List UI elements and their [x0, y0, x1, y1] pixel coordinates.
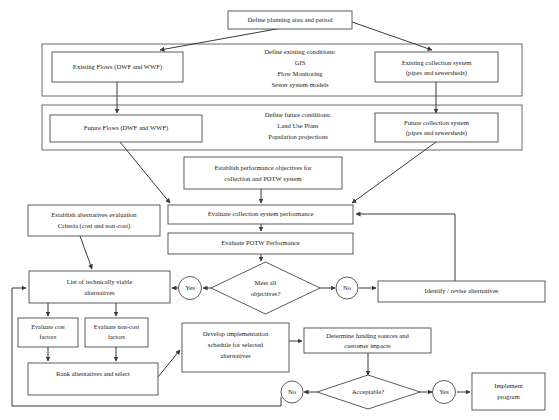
svg-text:Future collection system: Future collection system: [404, 119, 470, 126]
svg-text:schedule for selected: schedule for selected: [208, 341, 264, 348]
connector-criteria-to-list: [80, 236, 92, 269]
svg-text:Acceptable?: Acceptable?: [352, 388, 385, 395]
svg-text:Define future conditions:: Define future conditions:: [265, 111, 331, 118]
node-performance-objectives[interactable]: Establish performance objectives for col…: [184, 157, 342, 189]
node-viable-alternatives-list[interactable]: List of technically viable alternatives: [29, 271, 170, 303]
node-existing-collection-system[interactable]: Existing collection system (pipes and se…: [375, 52, 498, 82]
node-future-flows-label: Future Flows (DWF and WWF): [84, 124, 169, 132]
svg-text:Define existing conditions:: Define existing conditions:: [264, 48, 336, 55]
svg-text:Establish performance objectiv: Establish performance objectives for: [215, 164, 313, 171]
node-alternatives-criteria[interactable]: Establish alternatives evaluation Criter…: [28, 205, 160, 236]
node-meet-objectives-decision[interactable]: Meet all objectives?: [211, 262, 320, 314]
node-existing-flows[interactable]: Existing Flows (DWF and WWF): [52, 52, 183, 82]
svg-text:Meet all: Meet all: [255, 279, 277, 286]
node-determine-funding[interactable]: Determine funding sources and customer i…: [304, 328, 431, 353]
svg-text:objectives?: objectives?: [251, 290, 281, 297]
svg-text:(pipes and sewersheds): (pipes and sewersheds): [406, 129, 467, 137]
node-existing-flows-label: Existing Flows (DWF and WWF): [73, 63, 162, 71]
svg-text:Land Use Plans: Land Use Plans: [277, 122, 319, 129]
node-acceptable-decision[interactable]: Acceptable?: [317, 375, 420, 409]
svg-text:Establish alternatives evaluat: Establish alternatives evaluation: [51, 211, 137, 218]
svg-text:(pipes and sewersheds): (pipes and sewersheds): [406, 69, 467, 77]
node-implement-program[interactable]: Implement program: [472, 373, 545, 410]
node-develop-schedule[interactable]: Develop implementation schedule for sele…: [182, 323, 289, 372]
svg-text:factors: factors: [39, 333, 57, 340]
svg-text:customer impacts: customer impacts: [344, 342, 391, 349]
svg-text:Develop implementation: Develop implementation: [203, 330, 269, 337]
node-identify-revise-label: Identify / revise alternatives: [425, 287, 499, 294]
svg-text:Evaluate cost: Evaluate cost: [31, 323, 65, 330]
node-define-planning-area[interactable]: Define planning area and period: [228, 11, 352, 29]
node-evaluate-cost-factors[interactable]: Evaluate cost factors: [18, 318, 78, 347]
svg-text:Implement: Implement: [494, 382, 523, 389]
svg-text:Criteria (cost and non-cost): Criteria (cost and non-cost): [58, 222, 130, 230]
node-evaluate-noncost-factors[interactable]: Evaluate non-cost factors: [85, 318, 148, 347]
node-yes-acceptable[interactable]: Yes: [433, 381, 456, 404]
svg-text:Sewer system models: Sewer system models: [271, 81, 329, 88]
connector-identify-feedback-loop: [356, 214, 455, 281]
node-no-objectives[interactable]: No: [336, 277, 358, 299]
svg-text:factors: factors: [108, 333, 126, 340]
node-evaluate-collection-performance[interactable]: Evaluate collection system performance: [168, 205, 353, 224]
svg-text:List of technically viable: List of technically viable: [67, 278, 133, 285]
svg-text:Yes: Yes: [185, 284, 195, 291]
svg-text:GIS: GIS: [295, 59, 306, 66]
planning-process-flowchart: Define planning area and period Define e…: [0, 0, 559, 420]
node-evaluate-potw-label: Evaluate POTW Performance: [221, 239, 300, 246]
node-future-flows[interactable]: Future Flows (DWF and WWF): [50, 115, 202, 142]
svg-text:Evaluate non-cost: Evaluate non-cost: [94, 323, 140, 330]
svg-text:alternatives: alternatives: [84, 289, 115, 296]
node-rank-alternatives[interactable]: Rank alternatives and select: [28, 363, 158, 395]
svg-text:No: No: [288, 388, 297, 395]
connector-future-collection-to-evaluate: [352, 142, 436, 203]
node-define-planning-area-label: Define planning area and period: [248, 16, 334, 23]
svg-text:Flow Monitoring: Flow Monitoring: [277, 70, 323, 77]
svg-text:alternatives: alternatives: [220, 352, 251, 359]
svg-text:program: program: [497, 393, 520, 400]
svg-text:No: No: [343, 284, 352, 291]
node-yes-objectives[interactable]: Yes: [179, 277, 202, 300]
svg-text:Determine funding sources and: Determine funding sources and: [326, 332, 409, 339]
svg-text:collection and POTW system: collection and POTW system: [224, 175, 302, 182]
node-rank-alternatives-label: Rank alternatives and select: [56, 370, 130, 377]
node-identify-revise-alternatives[interactable]: Identify / revise alternatives: [378, 281, 545, 302]
svg-text:Population projections: Population projections: [268, 133, 328, 140]
connector-future-flows-to-evaluate: [120, 142, 170, 203]
svg-text:Existing collection system: Existing collection system: [402, 59, 472, 66]
flowchart-page: Define planning area and period Define e…: [0, 0, 559, 420]
node-no-acceptable[interactable]: No: [281, 381, 303, 403]
node-evaluate-collection-label: Evaluate collection system performance: [208, 210, 314, 217]
svg-text:Yes: Yes: [439, 388, 449, 395]
connector-rank-to-schedule: [158, 350, 180, 377]
node-future-collection-system[interactable]: Future collection system (pipes and sewe…: [375, 113, 498, 142]
node-evaluate-potw-performance[interactable]: Evaluate POTW Performance: [168, 233, 353, 254]
